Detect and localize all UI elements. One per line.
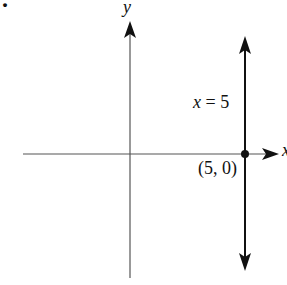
equation-variable: x [193, 92, 201, 112]
point-5-0 [241, 150, 249, 158]
y-axis-label: y [123, 0, 131, 18]
line-equation-label: x = 5 [193, 92, 229, 113]
x-axis-label: x [282, 140, 287, 161]
point-label: (5, 0) [198, 158, 237, 179]
coordinate-plane [0, 0, 287, 285]
